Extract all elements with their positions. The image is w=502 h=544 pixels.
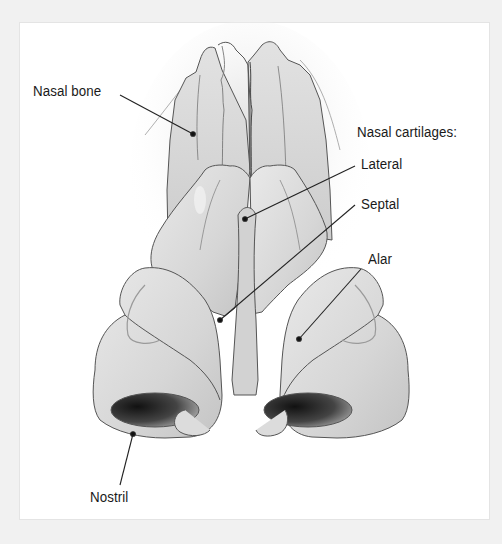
leader-nostril — [120, 434, 133, 485]
label-nostril: Nostril — [90, 488, 128, 506]
label-nasal-bone: Nasal bone — [33, 82, 101, 100]
label-nasal-cartilages-heading: Nasal cartilages: — [357, 123, 457, 141]
label-septal: Septal — [361, 195, 399, 213]
label-lateral: Lateral — [361, 155, 402, 173]
label-alar: Alar — [368, 250, 392, 268]
